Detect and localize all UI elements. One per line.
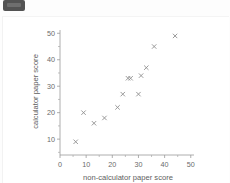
y-tick-label: 40 [47,55,55,64]
data-point [136,92,140,96]
x-tick-label: 40 [161,160,169,169]
data-point [102,116,106,120]
x-tick-label: 10 [82,160,90,169]
toolbar-chip[interactable] [3,0,25,11]
data-point [121,92,125,96]
x-tick-label: 20 [108,160,116,169]
x-tick-label: 50 [187,160,195,169]
x-tick-label: 30 [134,160,142,169]
data-point [115,105,119,109]
x-axis-title: non-calculator paper score [83,173,173,182]
data-point [92,121,96,125]
data-point [173,34,177,38]
data-point [81,110,85,114]
y-tick-label: 10 [47,135,55,144]
y-tick-label: 30 [47,82,55,91]
data-point [144,65,148,69]
y-axis-title: calculator paper score [31,54,40,129]
data-point [139,73,143,77]
x-tick-label: 0 [58,160,62,169]
toolbar-chip-glyph [7,3,21,7]
y-tick-label: 50 [47,29,55,38]
scatter-plot-svg: 010203040501020304050non-calculator pape… [0,14,230,183]
data-point [152,44,156,48]
data-point [128,76,132,80]
data-point [73,140,77,144]
screenshot-root: 010203040501020304050non-calculator pape… [0,0,230,183]
scatter-plot-figure: 010203040501020304050non-calculator pape… [0,14,230,183]
y-tick-label: 20 [47,108,55,117]
